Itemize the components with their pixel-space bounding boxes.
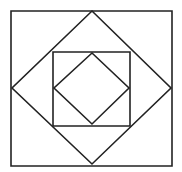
nested-shapes-diagram xyxy=(0,0,182,172)
outer-diamond xyxy=(12,11,171,164)
outer-square xyxy=(11,11,172,166)
inner-diamond xyxy=(54,53,129,124)
inner-square xyxy=(53,52,130,126)
